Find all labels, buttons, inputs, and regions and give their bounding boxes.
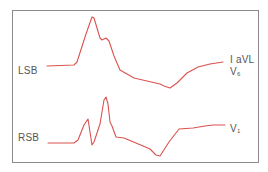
rsb-waveform — [48, 97, 225, 156]
lsb-waveform — [47, 17, 223, 88]
lead-v1-sub: 1 — [237, 128, 241, 134]
waveform-canvas — [0, 0, 268, 172]
lead-v6-base: V — [230, 66, 237, 77]
lead-v6-label: V6 — [230, 67, 240, 77]
lsb-label: LSB — [18, 66, 38, 76]
lead-i-avl-label: I aVL — [230, 55, 254, 65]
lead-v1-label: V1 — [230, 124, 240, 134]
rsb-label: RSB — [18, 133, 39, 143]
lead-v1-base: V — [230, 123, 237, 134]
lead-v6-sub: 6 — [237, 71, 241, 77]
